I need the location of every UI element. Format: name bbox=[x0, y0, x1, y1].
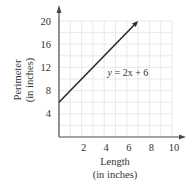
x-tick-label: 8 bbox=[149, 142, 154, 153]
y-axis-arrow-icon bbox=[57, 5, 62, 13]
y-tick-labels: 48121620 bbox=[41, 16, 52, 120]
x-tick-label: 4 bbox=[104, 142, 110, 153]
y-tick-label: 8 bbox=[46, 85, 51, 96]
line-chart: 246810 48121620 y = 2x + 6 Length (in in… bbox=[0, 0, 194, 186]
y-tick-label: 12 bbox=[41, 62, 52, 73]
x-axis-arrow-icon bbox=[179, 135, 186, 140]
y-tick-label: 16 bbox=[41, 39, 52, 50]
grid bbox=[59, 21, 172, 137]
y-tick-label: 4 bbox=[46, 108, 52, 119]
y-axis-subtitle: (in inches) bbox=[24, 57, 36, 102]
y-axis-title: Perimeter bbox=[12, 59, 23, 100]
x-tick-labels: 246810 bbox=[81, 142, 179, 153]
equation-label: y = 2x + 6 bbox=[107, 67, 149, 78]
x-tick-label: 10 bbox=[169, 142, 180, 153]
x-tick-label: 2 bbox=[81, 142, 86, 153]
series-line bbox=[59, 21, 138, 102]
x-axis-subtitle: (in inches) bbox=[93, 169, 138, 181]
y-tick-label: 20 bbox=[41, 16, 52, 27]
x-axis-title: Length bbox=[100, 156, 130, 167]
x-tick-label: 6 bbox=[126, 142, 131, 153]
